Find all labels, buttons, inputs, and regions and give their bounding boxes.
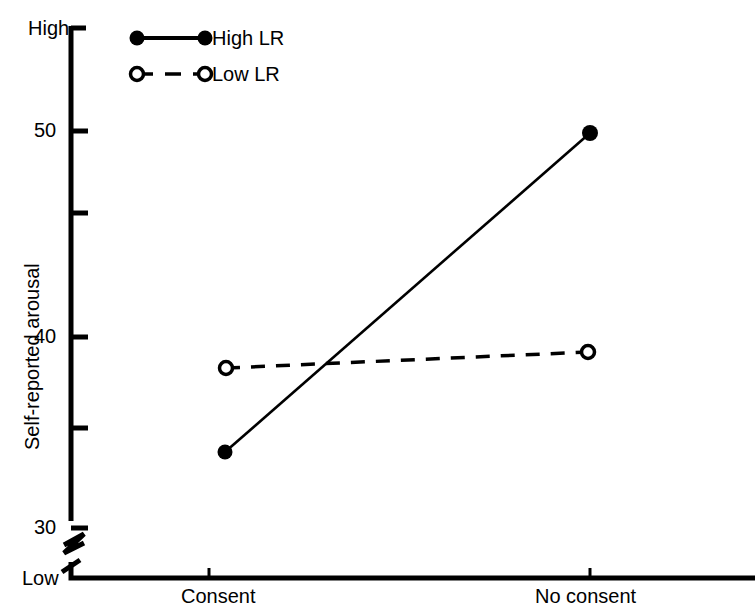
series-low-lr-line — [226, 352, 588, 368]
y-tick-label-high: High — [28, 18, 69, 38]
y-axis-title: Self-reported arousal — [22, 263, 42, 450]
data-point-high-lr-consent — [218, 445, 233, 460]
y-tick-label-low: Low — [22, 568, 59, 588]
legend-swatch-high-lr-marker-right — [198, 31, 213, 46]
legend-swatch-low-lr-marker-right — [199, 68, 212, 81]
legend-swatch-low-lr-marker-left — [131, 68, 144, 81]
series-high-lr-line — [225, 133, 590, 452]
legend-swatch-high-lr-marker-left — [130, 31, 145, 46]
chart-plot-area — [0, 0, 755, 616]
legend-label-low-lr: Low LR — [212, 64, 280, 84]
y-tick-label-30: 30 — [34, 517, 56, 537]
x-axis-line — [71, 562, 755, 578]
x-tick-label-no-consent: No consent — [535, 586, 636, 606]
data-point-low-lr-consent — [220, 362, 233, 375]
chart-container: High 50 40 30 Low Self-reported arousal … — [0, 0, 755, 616]
legend-label-high-lr: High LR — [212, 28, 284, 48]
x-tick-label-consent: Consent — [181, 586, 256, 606]
y-tick-label-50: 50 — [34, 120, 56, 140]
y-axis-break-icon — [64, 534, 84, 553]
data-point-low-lr-no-consent — [582, 346, 595, 359]
data-point-high-lr-no-consent — [582, 125, 598, 141]
